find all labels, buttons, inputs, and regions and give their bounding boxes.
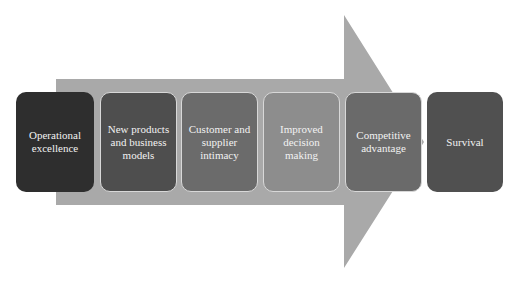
step-label: Competitive advantage — [352, 129, 415, 155]
step-label: New products and business models — [107, 123, 170, 162]
step-label: Operational excellence — [22, 129, 88, 155]
step-label: Survival — [446, 136, 483, 149]
step-customer-supplier-intimacy: Customer and supplier intimacy — [181, 92, 258, 192]
step-improved-decision-making: Improved decision making — [263, 92, 340, 192]
step-label: Customer and supplier intimacy — [188, 123, 251, 162]
step-new-products: New products and business models — [100, 92, 177, 192]
step-survival: Survival — [427, 92, 503, 192]
step-competitive-advantage: Competitive advantage — [345, 92, 422, 192]
step-operational-excellence: Operational excellence — [16, 92, 94, 192]
step-label: Improved decision making — [270, 123, 333, 162]
